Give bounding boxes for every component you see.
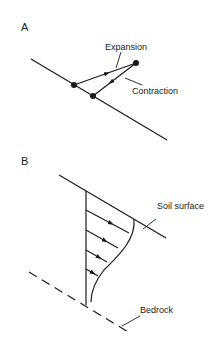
panel-b: B Soil surface Bedrock <box>21 155 204 333</box>
displacement-vector-1 <box>86 210 129 233</box>
slope-line <box>31 59 167 140</box>
bedrock-line <box>29 272 130 333</box>
soil-surface-line <box>59 175 166 238</box>
displacement-vector-3 <box>86 250 107 262</box>
soil-surface-label: Soil surface <box>157 201 204 211</box>
displacement-vector-4 <box>86 269 98 276</box>
expansion-leader <box>116 52 121 68</box>
particle-end-point <box>90 93 96 99</box>
bedrock-leader <box>122 316 140 326</box>
contraction-label: Contraction <box>132 86 178 96</box>
bedrock-label: Bedrock <box>140 305 174 315</box>
soil-creep-diagram: A Expansion Contraction B <box>0 0 216 351</box>
panel-a-label: A <box>21 21 29 33</box>
particle-start-point <box>71 82 77 88</box>
displacement-vector-2 <box>86 230 118 248</box>
particle-expanded-point <box>133 60 139 66</box>
expansion-path <box>74 63 136 85</box>
panel-b-label: B <box>21 155 28 167</box>
soil-surface-leader <box>143 219 156 229</box>
panel-a: A Expansion Contraction <box>21 21 178 140</box>
velocity-profile-curve <box>91 219 134 302</box>
expansion-label: Expansion <box>105 42 147 52</box>
contraction-leader <box>125 78 142 85</box>
